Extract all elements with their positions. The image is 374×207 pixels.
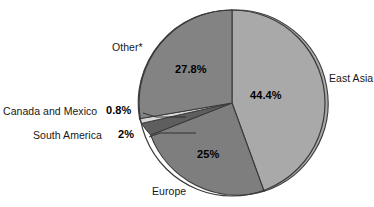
slice-value-other: 27.8% (175, 63, 207, 75)
pie-chart-canvas (0, 0, 374, 207)
slice-label-canada-and-mexico: Canada and Mexico (3, 105, 97, 117)
slice-label-south-america: South America (33, 129, 102, 141)
slice-value-east-asia: 44.4% (250, 89, 282, 101)
slice-value-south-america: 2% (118, 128, 134, 140)
slice-value-europe: 25% (197, 148, 219, 160)
pie-chart: Other* 27.8% East Asia 44.4% Canada and … (0, 0, 374, 207)
slice-label-europe: Europe (152, 185, 186, 197)
slice-label-other: Other* (112, 41, 143, 53)
slice-value-canada-and-mexico: 0.8% (106, 104, 131, 116)
slice-label-east-asia: East Asia (329, 72, 373, 84)
